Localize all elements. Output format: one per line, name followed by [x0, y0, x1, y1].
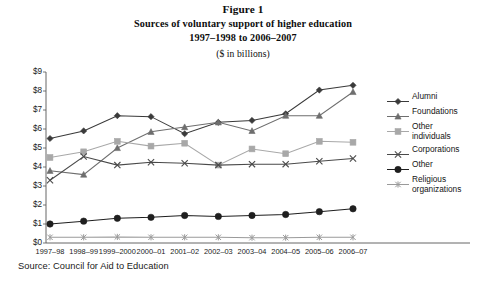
- y-axis-tick-label: $3: [20, 181, 42, 190]
- legend-item-label: Otherindividuals: [410, 122, 451, 141]
- source-note: Source: Council for Aid to Education: [18, 261, 169, 271]
- legend-item-label: Alumni: [410, 92, 437, 102]
- y-axis-tick-label: $8: [20, 86, 42, 95]
- legend-marker-icon: [386, 161, 410, 172]
- y-axis-tick-label: $4: [20, 162, 42, 171]
- legend-marker-icon: [386, 93, 410, 104]
- legend-item-label: Religiousorganizations: [410, 175, 461, 194]
- legend-marker-icon: [386, 123, 410, 134]
- figure-container: Figure 1 Sources of voluntary support of…: [0, 0, 486, 281]
- chart-series-other: [47, 206, 356, 228]
- y-axis-tick-label: $2: [20, 200, 42, 209]
- chart-series-religious-organizations: [47, 234, 355, 241]
- legend-item-foundations[interactable]: Foundations: [386, 107, 486, 119]
- legend-item-label-line2: organizations: [412, 185, 461, 195]
- y-axis-tick-label: $1: [20, 219, 42, 228]
- legend-item-religious-organizations[interactable]: Religiousorganizations: [386, 175, 486, 194]
- legend-item-label-line2: individuals: [412, 132, 451, 142]
- legend-marker-icon: [386, 176, 410, 187]
- y-axis-tick-label: $0: [20, 238, 42, 247]
- chart-legend: AlumniFoundationsOtherindividualsCorpora…: [386, 92, 486, 198]
- legend-marker-icon: [386, 146, 410, 157]
- chart-series-corporations: [47, 153, 356, 183]
- y-axis-tick-label: $7: [20, 105, 42, 114]
- chart-series-alumni: [47, 82, 356, 141]
- legend-item-other[interactable]: Other: [386, 160, 486, 172]
- y-axis-tick-label: $6: [20, 124, 42, 133]
- y-axis-tick-label: $9: [20, 67, 42, 76]
- legend-item-label: Corporations: [410, 145, 460, 155]
- chart-series-other-individuals: [47, 138, 356, 168]
- legend-item-corporations[interactable]: Corporations: [386, 145, 486, 157]
- legend-item-label: Foundations: [410, 107, 458, 117]
- legend-marker-icon: [386, 108, 410, 119]
- x-axis-tick-label: 2006–07: [328, 247, 378, 256]
- legend-item-other-individuals[interactable]: Otherindividuals: [386, 122, 486, 141]
- legend-item-alumni[interactable]: Alumni: [386, 92, 486, 104]
- legend-item-label: Other: [410, 160, 433, 170]
- y-axis-tick-label: $5: [20, 143, 42, 152]
